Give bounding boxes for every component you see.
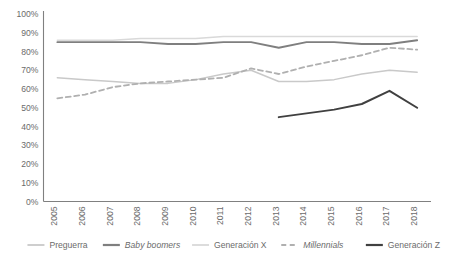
x-tick-label: 2006	[77, 206, 87, 225]
y-tick-label: 70%	[21, 65, 39, 75]
x-tick-label: 2005	[49, 206, 59, 225]
x-tick-label: 2015	[326, 206, 336, 225]
series-line	[57, 40, 417, 48]
line-chart: 0%10%20%30%40%50%60%70%80%90%100% 200520…	[0, 0, 460, 263]
chart-legend: PreguerraBaby boomersGeneración XMillenn…	[27, 240, 439, 250]
x-tick-label: 2014	[298, 206, 308, 225]
series-line	[57, 37, 417, 41]
chart-container: 0%10%20%30%40%50%60%70%80%90%100% 200520…	[0, 0, 460, 263]
series-line	[279, 91, 417, 117]
x-tick-label: 2016	[354, 206, 364, 225]
x-tick-label: 2011	[215, 206, 225, 225]
y-tick-label: 20%	[21, 159, 39, 169]
y-tick-label: 10%	[21, 178, 39, 188]
legend-label: Generación Z	[388, 240, 440, 250]
data-series-group	[57, 37, 417, 118]
y-axis-tick-labels: 0%10%20%30%40%50%60%70%80%90%100%	[17, 9, 39, 207]
legend-label: Generación X	[214, 240, 267, 250]
legend-label: Millennials	[303, 240, 344, 250]
legend-item: Generación Z	[366, 240, 440, 250]
y-tick-label: 90%	[21, 28, 39, 38]
x-tick-label: 2008	[132, 206, 142, 225]
legend-item: Millennials	[281, 240, 344, 250]
y-tick-label: 50%	[21, 103, 39, 113]
legend-label: Preguerra	[49, 240, 87, 250]
x-tick-label: 2007	[105, 206, 115, 225]
y-tick-label: 0%	[26, 197, 39, 207]
x-tick-label: 2013	[271, 206, 281, 225]
legend-item: Preguerra	[27, 240, 87, 250]
y-tick-label: 60%	[21, 84, 39, 94]
y-tick-label: 40%	[21, 122, 39, 132]
x-tick-label: 2017	[381, 206, 391, 225]
x-tick-label: 2010	[188, 206, 198, 225]
legend-item: Baby boomers	[103, 240, 181, 250]
y-tick-label: 30%	[21, 140, 39, 150]
legend-label: Baby boomers	[125, 240, 181, 250]
y-tick-label: 80%	[21, 47, 39, 57]
x-axis-tick-labels: 2005200620072008200920102011201220132014…	[49, 206, 419, 225]
x-tick-label: 2018	[409, 206, 419, 225]
x-tick-label: 2012	[243, 206, 253, 225]
x-tick-label: 2009	[160, 206, 170, 225]
y-tick-label: 100%	[17, 9, 39, 19]
legend-item: Generación X	[192, 240, 267, 250]
